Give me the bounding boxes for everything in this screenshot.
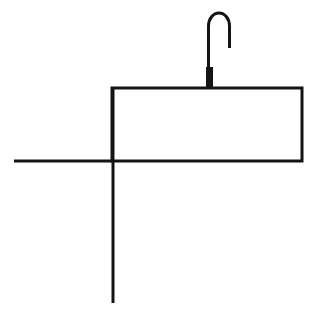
hook-stem-thick [206,67,213,89]
canvas-background [0,0,313,313]
line-drawing-figure [0,0,313,313]
drawing-canvas [0,0,313,313]
